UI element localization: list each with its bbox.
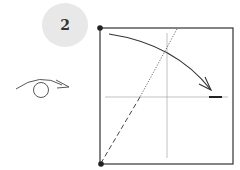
valley-fold-line-dotted [140, 29, 177, 97]
origami-diagram [0, 0, 240, 170]
corner-dot-bottom [98, 161, 104, 167]
valley-fold-line-dashed [101, 97, 140, 163]
corner-dot-top [97, 25, 103, 31]
turn-over-icon [16, 79, 69, 97]
fold-arrow-icon [109, 34, 211, 90]
